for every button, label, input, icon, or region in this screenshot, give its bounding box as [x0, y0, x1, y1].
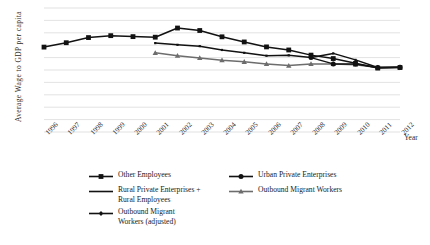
plot-area — [44, 8, 400, 132]
y-axis-title: Average Wage to GDP per capita — [14, 0, 23, 137]
legend-key — [88, 186, 114, 197]
legend-item[interactable]: Outbound Migrant Workers (adjusted) — [88, 207, 223, 226]
legend-key — [88, 171, 114, 182]
square-marker — [88, 171, 114, 182]
legend-label: Rural Private Enterprises + Rural Employ… — [118, 185, 201, 204]
legend-column-left: Other EmployeesRural Private Enterprises… — [88, 170, 223, 229]
line-marker — [88, 186, 114, 197]
chart-screenshot: Average Wage to GDP per capita 199619971… — [0, 0, 430, 245]
gridlines — [44, 8, 400, 132]
chart-canvas — [44, 8, 400, 132]
triangle-marker — [228, 186, 254, 197]
x-axis-title: Year — [404, 133, 418, 142]
circle-marker — [228, 171, 254, 182]
legend-label: Outbound Migrant Workers (adjusted) — [118, 207, 176, 226]
legend-label: Other Employees — [118, 170, 171, 180]
legend-item[interactable]: Rural Private Enterprises + Rural Employ… — [88, 185, 223, 204]
legend-column-right: Urban Private EnterprisesOutbound Migran… — [228, 170, 388, 200]
legend-item[interactable]: Other Employees — [88, 170, 223, 182]
legend-key — [88, 208, 114, 219]
chart-legend: Other EmployeesRural Private Enterprises… — [88, 170, 388, 240]
legend-item[interactable]: Outbound Migrant Workers — [228, 185, 388, 197]
legend-label: Outbound Migrant Workers — [258, 185, 342, 195]
legend-label: Urban Private Enterprises — [258, 170, 336, 180]
series-outbound-migrant-workers — [153, 50, 403, 69]
legend-item[interactable]: Urban Private Enterprises — [228, 170, 388, 182]
legend-key — [228, 171, 254, 182]
diamond-marker — [88, 208, 114, 219]
legend-key — [228, 186, 254, 197]
x-axis-tick-labels: 1996199719981999200020012002200320042005… — [44, 131, 400, 157]
